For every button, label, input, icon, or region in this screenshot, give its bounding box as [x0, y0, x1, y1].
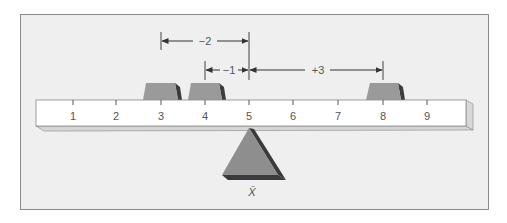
balance-diagram: −2 −1 +3 1 2 — [0, 0, 507, 223]
tick-label: 2 — [113, 110, 119, 122]
tick-label: 6 — [290, 110, 296, 122]
weight-at-4 — [188, 83, 226, 100]
deviation-label: −1 — [223, 64, 236, 76]
weight-at-3 — [143, 83, 182, 100]
tick-label: 9 — [424, 110, 430, 122]
mean-label: X̄ — [247, 186, 256, 198]
tick-label: 3 — [158, 110, 164, 122]
tick-label: 1 — [70, 110, 76, 122]
fulcrum-triangle — [222, 128, 286, 180]
tick-label: 8 — [380, 110, 386, 122]
deviation-label: −2 — [199, 35, 212, 47]
deviation-guides — [161, 32, 383, 80]
balance-beam — [36, 100, 473, 131]
tick-label: 4 — [202, 110, 208, 122]
tick-label: 5 — [246, 110, 252, 122]
weight-at-8 — [366, 83, 405, 100]
deviation-label: +3 — [312, 64, 325, 76]
tick-label: 7 — [335, 110, 341, 122]
